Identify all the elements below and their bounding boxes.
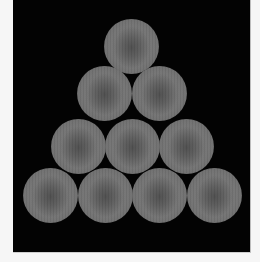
disc-row4-4	[187, 168, 242, 223]
disc-row4-2	[78, 168, 133, 223]
disc-row1-1	[104, 19, 159, 74]
disc-row2-2	[132, 66, 187, 121]
disc-row3-2	[105, 119, 160, 174]
disc-row3-1	[51, 119, 106, 174]
disc-row4-1	[23, 168, 78, 223]
disc-row4-3	[132, 168, 187, 223]
disc-row2-1	[77, 66, 132, 121]
disc-row3-3	[159, 119, 214, 174]
image-frame	[0, 0, 260, 262]
